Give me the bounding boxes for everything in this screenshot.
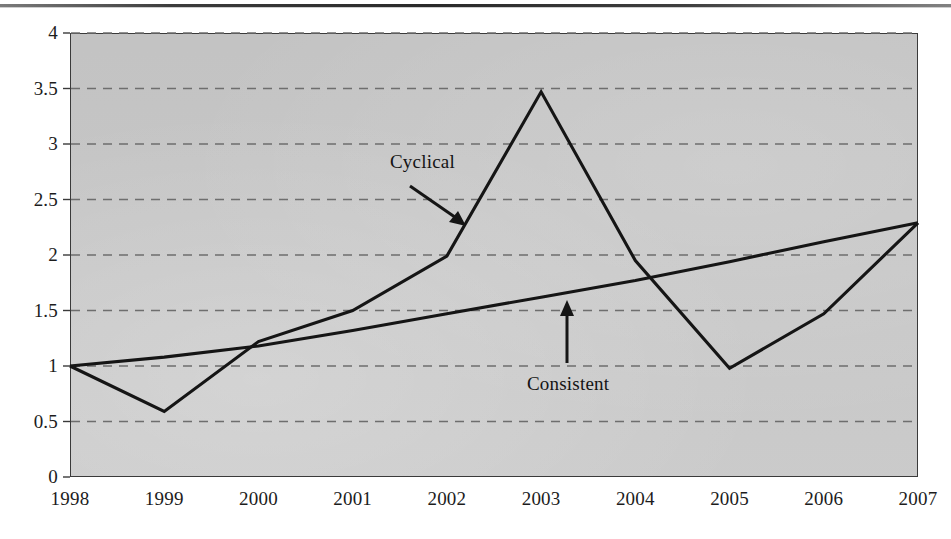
y-tick-label: 3.5 — [2, 79, 58, 98]
consistent-arrow-head — [560, 300, 574, 316]
x-tick-label: 2006 — [782, 489, 866, 508]
x-tick-label: 2003 — [499, 489, 583, 508]
series-lines-group — [70, 92, 918, 412]
x-tick-label: 2001 — [311, 489, 395, 508]
x-tick-label: 1999 — [122, 489, 206, 508]
x-tick-label: 2000 — [216, 489, 300, 508]
y-tick-label: 0 — [2, 467, 58, 486]
x-tick-label: 2002 — [405, 489, 489, 508]
y-tick-label: 1.5 — [2, 301, 58, 320]
x-tick-label: 2007 — [876, 489, 951, 508]
y-tick-label: 4 — [2, 23, 58, 42]
y-tick-label: 2 — [2, 245, 58, 264]
chart-svg — [0, 0, 951, 539]
series-line-cyclical — [70, 92, 918, 412]
series-line-consistent — [70, 223, 918, 366]
annotation-cyclical-label: Cyclical — [390, 152, 455, 171]
y-tick-label: 1 — [2, 356, 58, 375]
y-tick-label: 2.5 — [2, 190, 58, 209]
gridlines-group — [63, 33, 917, 477]
y-tick-label: 3 — [2, 134, 58, 153]
annotation-consistent-label: Consistent — [527, 374, 609, 393]
annotation-arrows-group — [410, 186, 574, 363]
chart-figure: 43.532.521.510.50 1998199920002001200220… — [0, 0, 951, 539]
y-tick-label: 0.5 — [2, 412, 58, 431]
x-tick-label: 1998 — [28, 489, 112, 508]
x-tick-label: 2004 — [593, 489, 677, 508]
x-tick-label: 2005 — [688, 489, 772, 508]
